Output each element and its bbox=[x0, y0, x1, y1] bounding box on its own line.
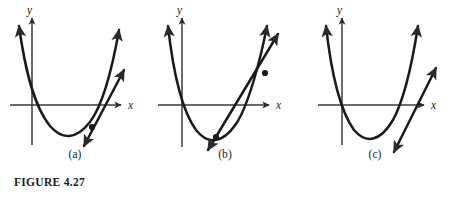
intersection-point bbox=[213, 134, 219, 140]
figure-caption: FIGURE 4.27 bbox=[14, 176, 85, 188]
panel-b-plot: x y bbox=[150, 0, 300, 165]
axes-group-c: x y bbox=[318, 4, 437, 145]
y-axis-label: y bbox=[176, 4, 183, 17]
intersection-point bbox=[89, 124, 95, 130]
panel-c-plot: x y bbox=[300, 0, 450, 165]
panel-a-plot: x y bbox=[0, 0, 150, 165]
panel-label-a: (a) bbox=[0, 148, 150, 160]
non-intersecting-line-c bbox=[394, 68, 436, 152]
x-axis-label: x bbox=[275, 99, 282, 111]
intersection-point bbox=[262, 70, 268, 76]
parabola-curve-a bbox=[19, 26, 119, 136]
y-axis-label: y bbox=[336, 4, 343, 17]
secant-line-b bbox=[208, 34, 278, 150]
parabola-curve-c bbox=[326, 26, 418, 139]
panel-a: x y (a) bbox=[0, 0, 150, 165]
panel-b: x y (b) bbox=[150, 0, 300, 165]
x-axis-label: x bbox=[430, 99, 437, 111]
x-axis-label: x bbox=[127, 99, 134, 111]
panel-c: x y (c) bbox=[300, 0, 450, 165]
panel-label-c: (c) bbox=[300, 148, 450, 160]
tangent-line-a bbox=[84, 70, 124, 146]
panel-label-b: (b) bbox=[150, 148, 300, 160]
y-axis-label: y bbox=[26, 4, 33, 17]
figure-container: x y (a) x y bbox=[0, 0, 469, 198]
parabola-curve-b bbox=[168, 26, 267, 140]
